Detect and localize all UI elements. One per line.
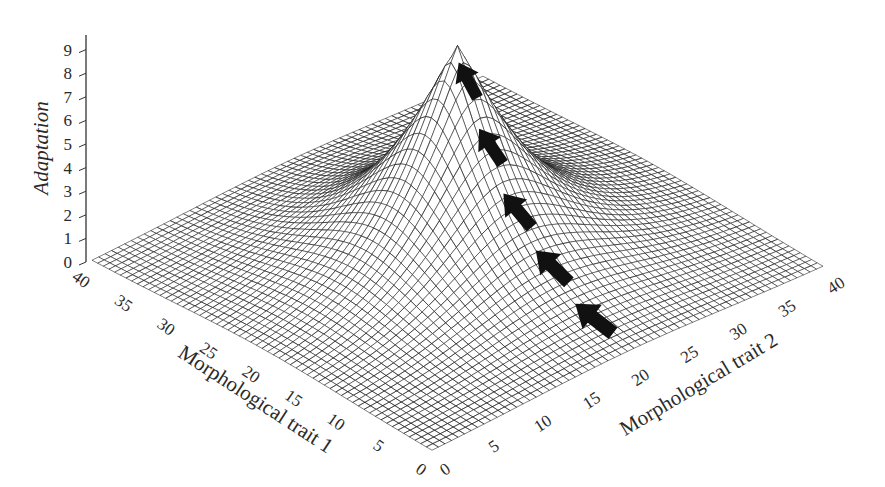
y-tick-label: 40 bbox=[824, 273, 849, 298]
x-tick-label: 5 bbox=[370, 436, 388, 456]
z-tick-label: 4 bbox=[64, 159, 73, 178]
z-tick-label: 7 bbox=[64, 88, 73, 107]
x-tick-label: 0 bbox=[412, 459, 430, 479]
y-tick-label: 10 bbox=[531, 411, 556, 436]
y-tick-label: 25 bbox=[677, 342, 702, 367]
y-tick-label: 35 bbox=[775, 296, 800, 321]
y-tick-label: 15 bbox=[579, 388, 604, 413]
z-axis: 0123456789 Adaptation bbox=[29, 35, 86, 272]
y-tick-label: 0 bbox=[436, 459, 453, 480]
z-tick-label: 5 bbox=[64, 135, 73, 154]
x-tick-label: 30 bbox=[154, 314, 179, 339]
x-tick-label: 35 bbox=[111, 291, 136, 316]
surface-plot: 0123456789 Adaptation 0510152025303540 M… bbox=[0, 0, 885, 487]
z-tick-label: 0 bbox=[64, 253, 73, 272]
y-tick-label: 5 bbox=[485, 436, 502, 457]
z-tick-label: 6 bbox=[64, 111, 73, 130]
z-tick-label: 9 bbox=[64, 41, 73, 60]
y-tick-label: 20 bbox=[628, 365, 653, 390]
z-tick-label: 1 bbox=[64, 229, 73, 248]
z-tick-label: 3 bbox=[64, 182, 73, 201]
z-axis-title: Adaptation bbox=[29, 101, 53, 196]
z-tick-label: 2 bbox=[64, 206, 73, 225]
z-tick-label: 8 bbox=[64, 64, 73, 83]
x-tick-label: 40 bbox=[69, 267, 94, 292]
surface-mesh bbox=[92, 46, 823, 451]
